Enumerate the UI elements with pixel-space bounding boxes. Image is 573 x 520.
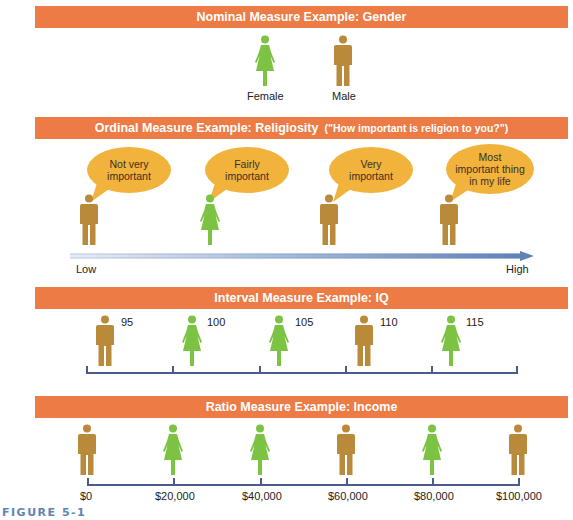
interval-banner: Interval Measure Example: IQ [35, 287, 568, 309]
male-figure-icon [507, 424, 529, 476]
axis-tick [173, 478, 175, 486]
iq-value: 115 [466, 316, 484, 328]
interval-title: Interval Measure Example: IQ [214, 291, 388, 305]
axis-tick [346, 478, 348, 486]
iq-value: 95 [121, 316, 133, 328]
speech-bubble: Veryimportant [329, 147, 413, 193]
male-figure-icon [353, 315, 375, 367]
income-label: $60,000 [328, 490, 368, 502]
female-figure-icon [254, 35, 276, 87]
income-label: $80,000 [414, 490, 454, 502]
axis-tick [86, 366, 88, 374]
female-figure-icon [421, 424, 443, 476]
speech-bubble: Not veryimportant [87, 147, 171, 193]
female-figure-icon [181, 315, 203, 367]
male-figure-icon [318, 194, 340, 246]
ratio-banner: Ratio Measure Example: Income [35, 396, 568, 418]
income-label: $40,000 [242, 490, 282, 502]
ordinal-banner: Ordinal Measure Example: Religiosity("Ho… [35, 117, 568, 139]
axis-tick [516, 366, 518, 374]
female-figure-icon [162, 424, 184, 476]
axis-tick [518, 478, 520, 486]
male-figure-icon [78, 194, 100, 246]
axis-tick [432, 478, 434, 486]
income-label: $0 [80, 490, 92, 502]
male-figure-icon [335, 424, 357, 476]
figure-caption: FIGURE 5-1 [2, 506, 86, 519]
iq-value: 110 [380, 316, 398, 328]
low-to-high-arrow-icon [70, 251, 534, 261]
nominal-title: Nominal Measure Example: Gender [197, 10, 407, 24]
ratio-axis [87, 484, 519, 486]
female-figure-icon [249, 424, 271, 476]
ordinal-subtitle: ("How important is religion to you?") [324, 122, 508, 134]
axis-tick [345, 366, 347, 374]
axis-tick [260, 478, 262, 486]
income-label: $100,000 [496, 490, 542, 502]
male-label: Male [332, 90, 356, 102]
female-figure-icon [199, 194, 221, 246]
iq-value: 105 [295, 316, 313, 328]
ordinal-title: Ordinal Measure Example: Religiosity [95, 121, 319, 135]
male-figure-icon [76, 424, 98, 476]
high-label: High [506, 263, 529, 275]
axis-tick [87, 478, 89, 486]
interval-axis [86, 372, 518, 374]
income-label: $20,000 [155, 490, 195, 502]
speech-bubble: Fairlyimportant [205, 147, 289, 193]
speech-bubble: Mostimportant thingin my life [446, 144, 534, 194]
nominal-banner: Nominal Measure Example: Gender [35, 6, 568, 28]
female-figure-icon [440, 315, 462, 367]
axis-tick [172, 366, 174, 374]
ratio-title: Ratio Measure Example: Income [206, 400, 398, 414]
axis-tick [431, 366, 433, 374]
low-label: Low [76, 263, 96, 275]
male-figure-icon [332, 35, 354, 87]
iq-value: 100 [207, 316, 225, 328]
female-label: Female [247, 90, 284, 102]
male-figure-icon [438, 194, 460, 246]
female-figure-icon [268, 315, 290, 367]
male-figure-icon [94, 315, 116, 367]
axis-tick [259, 366, 261, 374]
